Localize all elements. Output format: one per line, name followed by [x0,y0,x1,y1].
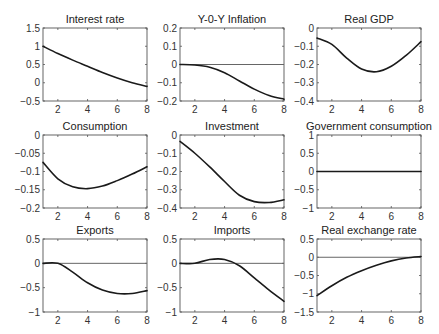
y-tick-label: −0.3 [157,184,177,195]
y-tick-label: −0.3 [294,77,314,88]
y-tick-label: 0 [171,59,177,70]
y-tick-label: 0.1 [163,41,177,52]
y-tick-label: −0.2 [20,203,40,214]
x-tick-label: 2 [329,315,335,326]
x-tick-label: 2 [192,315,198,326]
y-tick-label: −0.4 [294,96,314,107]
response-line [43,46,147,86]
x-tick-label: 4 [222,315,228,326]
x-tick-label: 2 [329,211,335,222]
x-tick-label: 4 [359,315,365,326]
y-tick-label: 0 [34,258,40,269]
y-tick-label: 0.5 [26,234,40,245]
subplot-title: Government consumption [306,120,432,132]
subplot-title: Consumption [63,120,128,132]
x-tick-label: 2 [55,315,61,326]
x-tick-label: 6 [252,315,258,326]
x-tick-label: 4 [222,104,228,115]
x-tick-label: 6 [252,211,258,222]
y-tick-label: 0.2 [163,23,177,34]
subplot-interest-rate: Interest rate24681.510.50−0.5 [20,13,150,115]
x-tick-label: 2 [192,211,198,222]
x-tick-label: 6 [252,104,258,115]
y-tick-label: −0.2 [157,96,177,107]
y-tick-label: 0.5 [300,148,314,159]
x-tick-label: 6 [389,315,395,326]
y-tick-label: −0.1 [294,41,314,52]
x-tick-label: 8 [281,315,287,326]
subplot-title: Exports [76,224,114,236]
y-tick-label: −0.5 [294,184,314,195]
response-line [180,65,284,100]
y-tick-label: 1 [34,41,40,52]
subplot-title: Investment [205,120,259,132]
y-tick-label: −0.5 [157,282,177,293]
x-tick-label: 4 [359,104,365,115]
response-line [180,259,284,301]
y-tick-label: −0.2 [294,59,314,70]
y-tick-label: 0 [171,130,177,141]
y-tick-label: 0 [308,23,314,34]
y-tick-label: −0.05 [15,148,41,159]
y-tick-label: 0 [308,166,314,177]
x-tick-label: 2 [192,104,198,115]
y-tick-label: 0 [308,252,314,263]
y-tick-label: −1 [166,307,178,318]
y-tick-label: 0.5 [300,234,314,245]
y-tick-label: 0 [34,77,40,88]
x-tick-label: 8 [144,104,150,115]
x-tick-label: 4 [85,211,91,222]
axes-box [180,239,284,312]
y-tick-label: −0.1 [157,148,177,159]
subplot-imports: Imports24680.50−0.5−1 [157,224,287,326]
y-tick-label: −0.4 [157,203,177,214]
x-tick-label: 6 [389,104,395,115]
subplot-title: Real GDP [344,13,394,25]
impulse-response-figure: Interest rate24681.510.50−0.5Y-0-Y Infla… [0,0,439,334]
subplot-government-consumption: Government consumption246810.50−0.5−1 [294,120,432,222]
axes-box [317,28,421,101]
axes-box [43,28,147,101]
axes-box [317,239,421,312]
x-tick-label: 8 [418,104,424,115]
y-tick-label: −0.5 [20,282,40,293]
y-tick-label: −0.1 [157,77,177,88]
x-tick-label: 8 [418,315,424,326]
subplot-real-gdp: Real GDP24680−0.1−0.2−0.3−0.4 [294,13,424,115]
subplot-title: Imports [214,224,251,236]
x-tick-label: 2 [55,211,61,222]
x-tick-label: 4 [359,211,365,222]
subplot-title: Y-0-Y Inflation [198,13,267,25]
response-line [43,162,147,188]
y-tick-label: −0.5 [20,96,40,107]
subplot-title: Interest rate [66,13,125,25]
x-tick-label: 8 [144,315,150,326]
subplot-investment: Investment24680−0.1−0.2−0.3−0.4 [157,120,287,222]
y-tick-label: 1.5 [26,23,40,34]
y-tick-label: −1 [303,288,315,299]
y-tick-label: −0.2 [157,166,177,177]
y-tick-label: 0.5 [26,59,40,70]
response-line [317,38,421,72]
x-tick-label: 4 [222,211,228,222]
subplot-real-exchange-rate: Real exchange rate24680.50−0.5−1−1.5 [294,224,424,326]
y-tick-label: −1 [29,307,41,318]
x-tick-label: 8 [281,211,287,222]
x-tick-label: 8 [144,211,150,222]
subplot-exports: Exports24680.50−0.5−1 [20,224,150,326]
x-tick-label: 6 [115,315,121,326]
axes-box [43,135,147,208]
y-tick-label: 1 [308,130,314,141]
subplot-title: Real exchange rate [321,224,416,236]
x-tick-label: 4 [85,104,91,115]
response-line [43,263,147,294]
subplot-y-0-y-inflation: Y-0-Y Inflation24680.20.10−0.1−0.2 [157,13,287,115]
x-tick-label: 6 [115,104,121,115]
x-tick-label: 6 [115,211,121,222]
axes-box [180,135,284,208]
response-line [180,141,284,202]
x-tick-label: 2 [329,104,335,115]
y-tick-label: 0.5 [163,234,177,245]
y-tick-label: 0 [34,130,40,141]
axes-box [43,239,147,312]
